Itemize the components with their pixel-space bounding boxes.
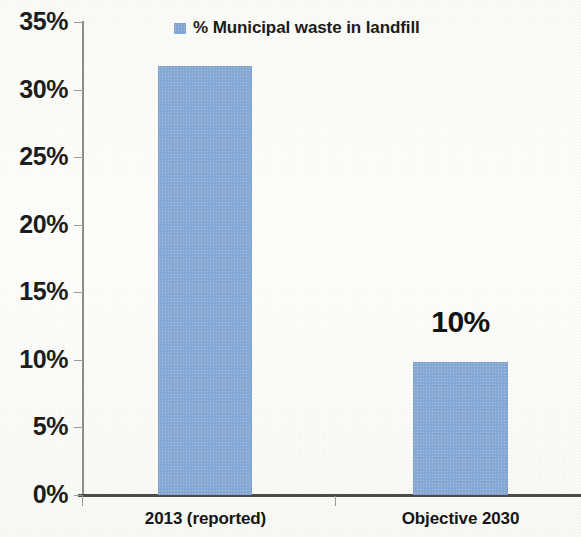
y-axis-label: 0% — [0, 482, 68, 507]
x-axis-tick — [82, 496, 83, 506]
x-axis-tick — [335, 496, 336, 506]
y-axis-tick — [74, 360, 83, 361]
y-axis-tick — [74, 90, 83, 91]
y-axis-tick — [74, 22, 83, 23]
legend-entry-label: % Municipal waste in landfill — [193, 18, 420, 38]
y-axis-label: 30% — [0, 77, 68, 102]
y-axis-label: 35% — [0, 9, 68, 34]
bar-chart: % Municipal waste in landfill 35% 30% 25… — [0, 0, 581, 537]
y-axis-line — [82, 21, 84, 496]
plot-area: % Municipal waste in landfill 35% 30% 25… — [0, 0, 581, 537]
bar-objective-2030[interactable] — [413, 362, 508, 495]
legend-swatch-icon — [174, 23, 186, 34]
x-axis-label-2013: 2013 (reported) — [113, 509, 298, 529]
chart-legend: % Municipal waste in landfill — [174, 18, 420, 38]
y-axis-label: 20% — [0, 212, 68, 237]
y-axis-tick — [74, 157, 83, 158]
x-axis-label-objective: Objective 2030 — [368, 509, 553, 529]
y-axis-tick — [74, 292, 83, 293]
y-axis-label: 5% — [0, 414, 68, 439]
y-axis-tick — [74, 225, 83, 226]
y-axis-tick — [74, 427, 83, 428]
y-axis-label: 25% — [0, 144, 68, 169]
y-axis-label: 10% — [0, 347, 68, 372]
y-axis-label: 15% — [0, 279, 68, 304]
bar-2013-reported[interactable] — [158, 66, 252, 495]
data-label-objective-2030: 10% — [413, 305, 508, 339]
